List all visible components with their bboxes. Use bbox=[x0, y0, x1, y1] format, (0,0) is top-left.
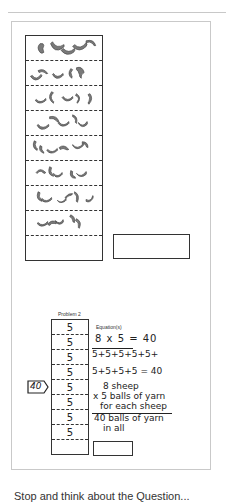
macaroni-icon bbox=[26, 86, 102, 110]
macaroni-icon bbox=[26, 136, 102, 160]
strip-row-empty bbox=[26, 236, 102, 261]
tape-cell: 5 bbox=[52, 335, 88, 350]
footer-partial-text: Stop and think about the Question... bbox=[14, 490, 190, 502]
answer-box-problem-1[interactable] bbox=[113, 234, 190, 259]
equation-addition-line-2: 5+5+5+5 = 40 bbox=[92, 366, 162, 376]
top-divider bbox=[8, 12, 226, 13]
macaroni-icon bbox=[26, 161, 102, 185]
macaroni-icon bbox=[26, 61, 102, 85]
total-tag-value: 40 bbox=[30, 381, 41, 391]
macaroni-icon bbox=[26, 111, 102, 135]
tape-cell: 5 bbox=[52, 425, 88, 440]
equation-addition-line-1: 5+5+5+5+5+ bbox=[92, 349, 158, 359]
strip-row bbox=[26, 86, 102, 111]
answer-box-problem-2[interactable] bbox=[93, 441, 133, 456]
tape-cell: 5 bbox=[52, 350, 88, 365]
equations-label: Equation(s) bbox=[96, 324, 122, 330]
word-equation-line: x 5 balls of yarn bbox=[93, 391, 165, 401]
word-equation-line: for each sheep bbox=[100, 401, 167, 411]
word-equation-line: 8 sheep bbox=[103, 381, 139, 391]
strip-row bbox=[26, 136, 102, 161]
word-equation-line: in all bbox=[103, 423, 125, 433]
word-equation-line: 40 balls of yarn bbox=[94, 413, 164, 423]
macaroni-icon bbox=[26, 36, 102, 60]
tape-diagram-problem-2: 5 5 5 5 5 5 5 5 bbox=[51, 319, 89, 455]
macaroni-icon bbox=[26, 211, 102, 235]
tape-cell: 5 bbox=[52, 365, 88, 380]
tape-cell-empty bbox=[52, 440, 88, 456]
tape-cell: 5 bbox=[52, 395, 88, 410]
macaroni-icon bbox=[26, 186, 102, 210]
strip-row bbox=[26, 111, 102, 136]
tape-cell: 5 bbox=[52, 410, 88, 425]
tape-cell: 5 bbox=[52, 380, 88, 395]
tape-cell: 5 bbox=[52, 320, 88, 335]
equation-multiplication: 8 x 5 = 40 bbox=[95, 333, 157, 344]
strip-row bbox=[26, 36, 102, 61]
strip-row bbox=[26, 211, 102, 236]
strip-row bbox=[26, 186, 102, 211]
strip-row bbox=[26, 61, 102, 86]
problem-2-label: Problem 2 bbox=[58, 311, 81, 317]
strip-row bbox=[26, 161, 102, 186]
macaroni-strip bbox=[25, 35, 103, 261]
